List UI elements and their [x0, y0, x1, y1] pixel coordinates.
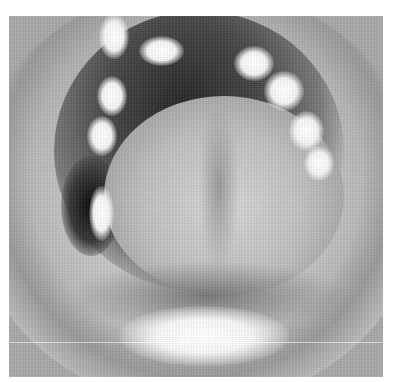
film-grain	[9, 16, 383, 377]
scan-artifact	[9, 342, 383, 343]
intraoral-photo	[9, 16, 383, 377]
